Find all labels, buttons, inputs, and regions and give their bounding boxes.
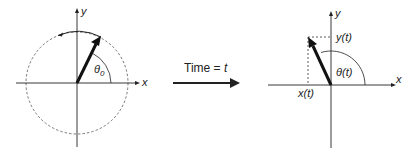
theta-t-label: θ(t) bbox=[336, 66, 353, 78]
initial-state-diagram: x y θ0 bbox=[16, 5, 148, 147]
y-axis-label: y bbox=[80, 5, 88, 17]
x-axis-arrow-icon bbox=[135, 81, 140, 85]
rotation-direction-icon bbox=[58, 33, 63, 37]
time-transition: Time = t bbox=[173, 61, 240, 88]
y-axis-arrow-icon bbox=[75, 8, 79, 13]
xt-label: x(t) bbox=[297, 87, 314, 99]
vector-arrowhead-icon bbox=[91, 36, 101, 46]
x-axis-label: x bbox=[141, 76, 148, 88]
rotation-diagram: x y θ0 Time = t x y y(t) θ(t) x(t) bbox=[0, 0, 416, 156]
rotation-arc bbox=[58, 31, 101, 37]
y-axis-label: y bbox=[334, 7, 342, 19]
y-axis-arrow-icon bbox=[329, 11, 333, 16]
time-t-state-diagram: x y y(t) θ(t) x(t) bbox=[268, 7, 402, 148]
time-caption: Time = t bbox=[184, 61, 228, 75]
yt-label: y(t) bbox=[335, 31, 352, 43]
x-axis-label: x bbox=[395, 73, 402, 85]
theta0-label: θ0 bbox=[94, 63, 105, 78]
transition-arrowhead-icon bbox=[230, 78, 240, 88]
